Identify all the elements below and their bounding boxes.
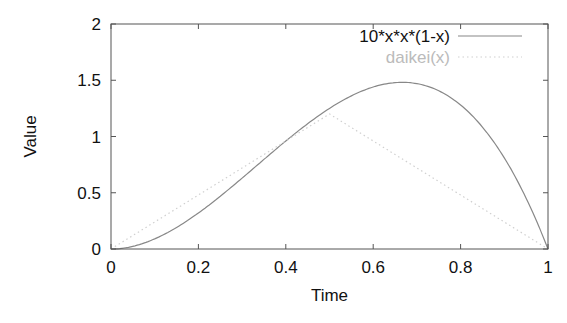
- series-line-1: [111, 114, 548, 249]
- plot-area: [111, 82, 548, 249]
- x-tick-label: 1: [543, 258, 552, 277]
- legend-label-1: daikei(x): [386, 48, 450, 67]
- x-tick-label: 0.4: [274, 258, 298, 277]
- x-axis-label: Time: [311, 286, 348, 305]
- y-tick-label: 2: [92, 15, 101, 34]
- y-tick-label: 0: [92, 240, 101, 259]
- y-tick-label: 0.5: [77, 184, 101, 203]
- x-tick-label: 0.6: [361, 258, 385, 277]
- legend-label-0: 10*x*x*(1-x): [359, 27, 450, 46]
- line-chart: 00.20.40.60.8100.511.52TimeValue 10*x*x*…: [0, 0, 567, 323]
- plot-frame: [111, 24, 548, 249]
- axes: 00.20.40.60.8100.511.52TimeValue: [21, 15, 553, 305]
- legend: 10*x*x*(1-x)daikei(x): [359, 27, 522, 67]
- series-line-0: [111, 82, 548, 249]
- x-tick-label: 0.2: [187, 258, 211, 277]
- y-axis-label: Value: [21, 115, 40, 157]
- y-tick-label: 1.5: [77, 71, 101, 90]
- x-tick-label: 0: [106, 258, 115, 277]
- x-tick-label: 0.8: [449, 258, 473, 277]
- y-tick-label: 1: [92, 128, 101, 147]
